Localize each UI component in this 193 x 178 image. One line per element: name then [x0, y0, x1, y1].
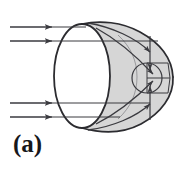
- panel-label: (a): [13, 131, 42, 156]
- figure-panel-a: (a): [0, 0, 193, 178]
